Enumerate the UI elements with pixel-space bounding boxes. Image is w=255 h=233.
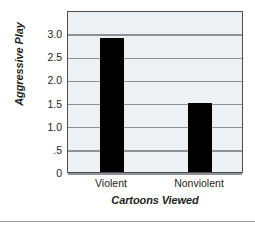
y-tick-label: 1.5	[28, 99, 62, 109]
x-tick-label: Violent	[95, 177, 127, 190]
y-tick-label: 2.0	[28, 75, 62, 85]
gridline-.5	[68, 150, 242, 152]
plot-area	[67, 11, 243, 173]
bottom-divider	[0, 221, 255, 222]
bar-violent	[100, 38, 124, 172]
x-axis-title: Cartoons Viewed	[67, 194, 243, 206]
x-tick-label: Nonviolent	[174, 177, 224, 190]
gridline-2.5	[68, 58, 242, 60]
gridline-1.0	[68, 127, 242, 129]
y-axis-tick-labels: 0.51.01.52.02.53.0	[28, 11, 62, 173]
plot-inner	[68, 12, 242, 172]
gridline-3.0	[68, 34, 242, 36]
y-tick-label: 3.0	[28, 29, 62, 39]
y-tick-label: 2.5	[28, 52, 62, 62]
gridline-2.0	[68, 81, 242, 83]
y-tick-label: 1.0	[28, 122, 62, 132]
y-axis-title: Aggressive Play	[13, 14, 25, 114]
gridline-0	[68, 173, 242, 175]
y-tick-label: 0	[28, 168, 62, 178]
gridline-1.5	[68, 104, 242, 106]
x-axis-tick-labels: ViolentNonviolent	[67, 177, 243, 193]
bar-chart-figure: Aggressive Play 0.51.01.52.02.53.0 Viole…	[0, 0, 255, 233]
y-tick-label: .5	[28, 145, 62, 155]
bar-nonviolent	[188, 103, 212, 172]
